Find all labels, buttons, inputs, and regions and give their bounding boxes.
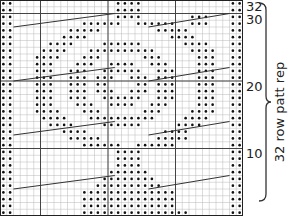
- repeat-label: 32 row patt rep: [272, 62, 287, 162]
- knitting-chart: [0, 0, 243, 216]
- repeat-brace: [258, 2, 272, 202]
